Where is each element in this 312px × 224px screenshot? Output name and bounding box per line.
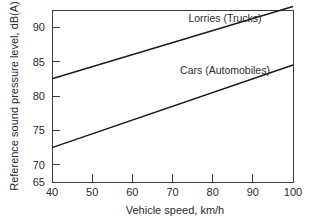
y-axis-tick-labels: 90 85 80 75 70 65: [33, 21, 45, 188]
series-label-cars: Cars (Automobiles): [180, 64, 270, 76]
x-tick-label-60: 60: [126, 186, 138, 198]
line-chart: 90 85 80 75 70 65 40 50 60 70 80 90 100 …: [0, 0, 312, 224]
y-tick-label-85: 85: [33, 56, 45, 68]
x-tick-label-90: 90: [247, 186, 259, 198]
x-axis-tick-labels: 40 50 60 70 80 90 100: [46, 186, 302, 198]
y-tick-label-70: 70: [33, 159, 45, 171]
x-tick-label-50: 50: [86, 186, 98, 198]
y-tick-label-75: 75: [33, 124, 45, 136]
x-tick-label-70: 70: [166, 186, 178, 198]
plot-frame: [52, 10, 293, 182]
x-tick-label-40: 40: [46, 186, 58, 198]
x-axis-title: Vehicle speed, km/h: [126, 204, 224, 216]
y-axis-title: Reference sound pressure level, dB(A): [8, 1, 20, 191]
y-tick-label-65: 65: [33, 176, 45, 188]
x-tick-label-100: 100: [284, 186, 302, 198]
series-label-lorries: Lorries (Trucks): [188, 12, 261, 24]
y-tick-label-80: 80: [33, 90, 45, 102]
x-tick-label-80: 80: [207, 186, 219, 198]
x-axis-ticks: [92, 174, 253, 182]
y-axis-ticks: [52, 27, 60, 165]
y-tick-label-90: 90: [33, 21, 45, 33]
chart-figure: 90 85 80 75 70 65 40 50 60 70 80 90 100 …: [0, 0, 312, 224]
series-line-cars: [52, 65, 293, 148]
